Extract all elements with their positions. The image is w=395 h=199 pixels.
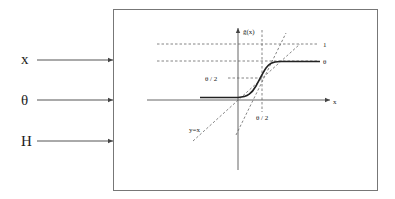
x-axis-label: x bbox=[333, 98, 337, 106]
input-x-label: x bbox=[21, 51, 29, 67]
half-theta-y-label: θ / 2 bbox=[205, 75, 218, 83]
input-theta-label: θ bbox=[21, 92, 28, 108]
y-axis-label: g̃(x) bbox=[243, 28, 255, 36]
identity-line-label: y=x bbox=[189, 126, 200, 134]
identity-line bbox=[193, 44, 300, 141]
diagram-canvas: x θ H g̃(x) x 1 θ θ / 2 θ / 2 y=x bbox=[0, 0, 395, 199]
input-h: H bbox=[21, 133, 113, 149]
input-theta: θ bbox=[21, 92, 113, 108]
sigmoid-curve bbox=[200, 62, 320, 98]
input-x: x bbox=[21, 51, 113, 67]
level-theta-label: θ bbox=[323, 58, 327, 66]
half-theta-x-label: θ / 2 bbox=[256, 114, 269, 122]
level-one-label: 1 bbox=[323, 41, 327, 49]
input-h-label: H bbox=[21, 133, 32, 149]
